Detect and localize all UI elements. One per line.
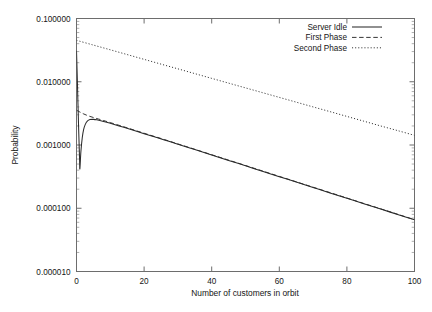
plot-frame [77, 19, 415, 272]
series-first-phase [77, 110, 415, 219]
legend-label-second-phase: Second Phase [294, 44, 348, 53]
legend-label-server-idle: Server Idle [307, 23, 347, 32]
x-tick-label: 0 [74, 277, 79, 286]
x-tick-label: 40 [207, 277, 217, 286]
y-tick-label: 0.100000 [36, 15, 71, 24]
x-tick-label: 80 [342, 277, 352, 286]
series-server-idle [77, 51, 415, 220]
chart-container: 0.1000000.0100000.0010000.0001000.000010… [0, 0, 432, 312]
x-tick-label: 60 [275, 277, 285, 286]
chart-legend: Server IdleFirst PhaseSecond Phase [294, 23, 382, 53]
x-tick-label: 20 [140, 277, 150, 286]
x-axis-tick-labels: 020406080100 [74, 277, 422, 286]
legend-label-first-phase: First Phase [306, 33, 348, 42]
series-second-phase [77, 40, 415, 135]
series-lines-group [77, 40, 415, 220]
y-axis-title: Probability [10, 125, 20, 165]
y-axis-tick-labels: 0.1000000.0100000.0010000.0001000.000010 [36, 15, 71, 277]
y-tick-label: 0.010000 [36, 78, 71, 87]
y-tick-label: 0.000010 [36, 268, 71, 277]
x-axis-title: Number of customers in orbit [191, 288, 299, 298]
axis-ticks-group [77, 19, 415, 272]
probability-line-chart: 0.1000000.0100000.0010000.0001000.000010… [0, 0, 432, 312]
y-tick-label: 0.001000 [36, 141, 71, 150]
x-tick-label: 100 [408, 277, 422, 286]
y-tick-label: 0.000100 [36, 204, 71, 213]
